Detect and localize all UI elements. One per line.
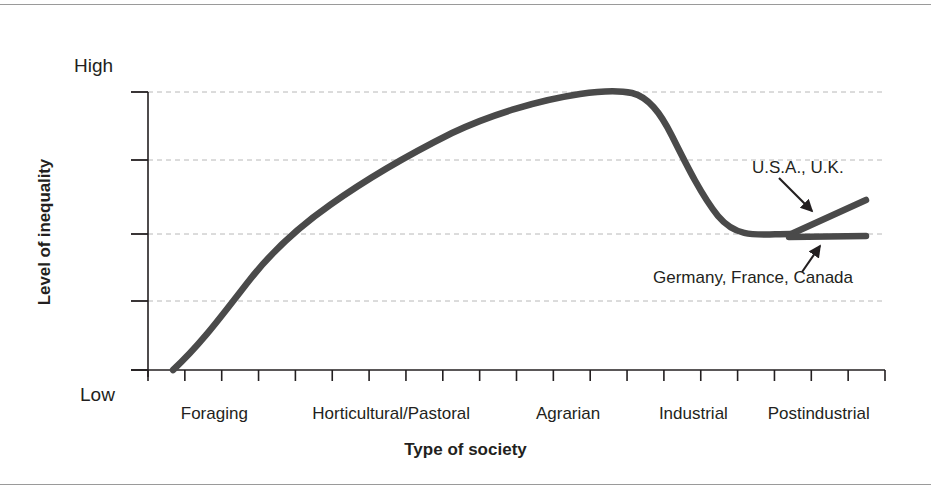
- annotation-usa-uk: U.S.A., U.K.: [752, 158, 844, 178]
- x-category-label: Industrial: [659, 404, 728, 424]
- branch-line-germany-france-canada: [789, 236, 866, 237]
- x-axis-title: Type of society: [0, 440, 931, 460]
- x-category-label: Postindustrial: [768, 404, 870, 424]
- arrow-to-usa-uk-branch: [779, 178, 812, 211]
- y-axis-high-label: High: [74, 55, 113, 77]
- y-axis-low-label: Low: [80, 384, 115, 406]
- figure-container: High Low Level of inequality Type of soc…: [0, 0, 931, 494]
- y-axis-ticks: [131, 92, 148, 370]
- x-category-label: Agrarian: [536, 404, 600, 424]
- inequality-trend-line: [173, 91, 790, 370]
- branch-line-usa-uk: [789, 200, 866, 235]
- annotation-germany-france-canada: Germany, France, Canada: [653, 268, 853, 288]
- y-axis-title: Level of inequality: [35, 142, 55, 322]
- x-category-label: Foraging: [181, 404, 248, 424]
- x-category-label: Horticultural/Pastoral: [312, 404, 470, 424]
- x-axis-ticks: [148, 370, 885, 381]
